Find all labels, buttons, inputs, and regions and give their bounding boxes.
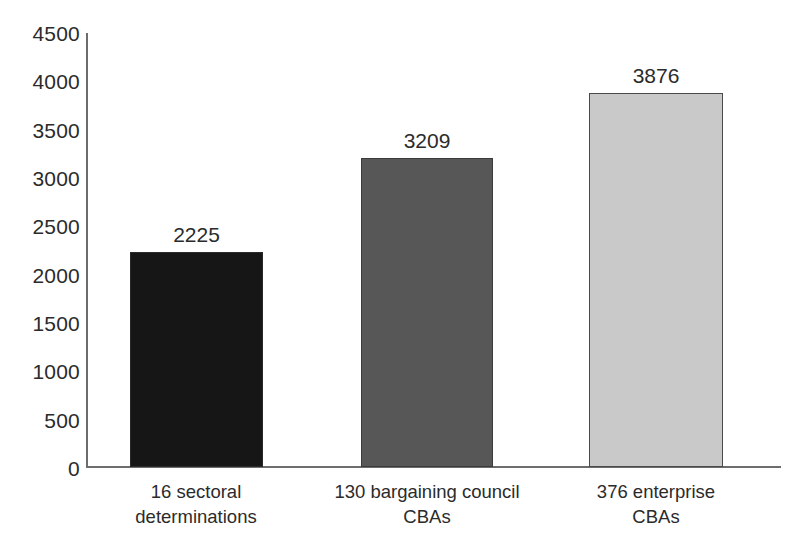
bar-series-2 [589,93,723,467]
bar-series-0 [130,252,263,467]
bar-chart: 4500 4000 3500 3000 2500 2000 1500 1000 … [0,0,792,559]
category-label-line-1: 376 enterprise [597,481,715,502]
x-axis-category-label-1: 130 bargaining council CBAs [317,479,537,529]
x-axis-category-label-2: 376 enterprise CBAs [556,479,756,529]
bar-series-1 [361,158,493,467]
category-label-line-1: 16 sectoral [151,481,242,502]
category-label-line-2: CBAs [317,504,537,529]
bar-value-label: 3209 [361,130,493,151]
bars-layer: 2225 3209 3876 [0,0,792,559]
x-axis-category-label-0: 16 sectoral determinations [96,479,296,529]
category-label-line-1: 130 bargaining council [334,481,519,502]
category-label-line-2: determinations [96,504,296,529]
bar-value-label: 2225 [130,224,263,245]
bar-value-label: 3876 [589,65,723,86]
category-label-line-2: CBAs [556,504,756,529]
